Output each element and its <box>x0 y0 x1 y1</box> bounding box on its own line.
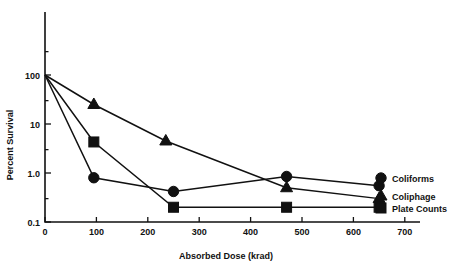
chart-legend: ColiformsColiphagePlate Counts <box>375 173 447 214</box>
chart-container: 0100200300400500600700 100101.00.1 Absor… <box>0 0 452 265</box>
data-point-circle <box>281 171 291 181</box>
axis-lines <box>45 12 420 222</box>
data-point-square <box>89 137 99 147</box>
x-axis-title: Absorbed Dose (krad) <box>179 251 273 261</box>
x-tick-label: 0 <box>42 227 47 237</box>
legend-label: Coliforms <box>392 174 434 184</box>
data-point-circle <box>89 173 99 183</box>
x-tick-label: 200 <box>140 227 155 237</box>
x-tick-label: 500 <box>294 227 309 237</box>
data-point-circle <box>168 186 178 196</box>
x-tick-label: 700 <box>397 227 412 237</box>
x-tick-label: 300 <box>192 227 207 237</box>
x-tick-label: 600 <box>346 227 361 237</box>
series-group <box>45 75 385 212</box>
legend-marker-triangle <box>375 189 387 200</box>
legend-marker-square <box>376 203 386 213</box>
y-tick-label: 10 <box>30 120 40 130</box>
axis-group <box>45 12 420 222</box>
y-axis-ticks <box>45 75 51 222</box>
y-tick-label: 0.1 <box>27 218 40 228</box>
y-axis-tick-labels: 100101.00.1 <box>25 71 40 228</box>
x-tick-label: 400 <box>243 227 258 237</box>
y-tick-label: 100 <box>25 71 40 81</box>
data-point-triangle <box>88 98 100 109</box>
legend-label: Plate Counts <box>392 204 447 214</box>
x-tick-label: 100 <box>89 227 104 237</box>
data-point-square <box>282 202 292 212</box>
x-axis-tick-labels: 0100200300400500600700 <box>42 227 412 237</box>
survival-curve-chart: 0100200300400500600700 100101.00.1 Absor… <box>0 0 452 265</box>
data-point-triangle <box>160 134 172 145</box>
y-tick-label: 1.0 <box>27 169 40 179</box>
legend-label: Coliphage <box>392 192 436 202</box>
data-point-square <box>169 202 179 212</box>
series-plate-counts <box>45 75 384 212</box>
legend-marker-circle <box>376 173 386 183</box>
y-axis-title: Percent Survival <box>5 110 15 181</box>
series-coliforms <box>45 75 384 197</box>
